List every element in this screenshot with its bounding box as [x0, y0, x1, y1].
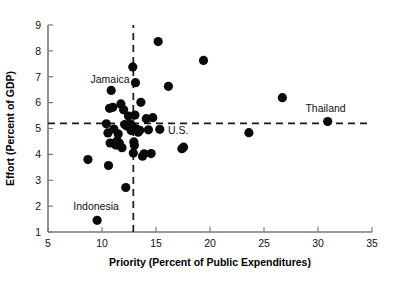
data-point: [199, 56, 208, 65]
x-tick-label: 30: [312, 237, 324, 249]
data-point: [107, 86, 116, 95]
scatter-plot-figure: 123456789 5101520253035 JamaicaIndonesia…: [0, 0, 402, 283]
plot-canvas: 123456789 5101520253035 JamaicaIndonesia…: [0, 0, 402, 283]
data-point: [128, 62, 137, 71]
x-axis-title: Priority (Percent of Public Expenditures…: [109, 256, 311, 268]
data-point: [155, 125, 164, 134]
data-point: [278, 93, 287, 102]
x-tick-label: 15: [150, 237, 162, 249]
data-point: [108, 103, 117, 112]
y-tick-label: 7: [35, 71, 41, 83]
data-point: [104, 161, 113, 170]
data-point: [114, 129, 123, 138]
annotation-label-thailand: Thailand: [305, 102, 345, 114]
y-axis-ticks: 123456789: [35, 19, 53, 238]
x-tick-label: 35: [366, 237, 378, 249]
data-point: [117, 143, 126, 152]
data-point: [130, 141, 139, 150]
data-point: [131, 78, 140, 87]
data-point: [93, 216, 102, 225]
data-point: [147, 149, 156, 158]
data-point: [83, 155, 92, 164]
data-point: [154, 37, 163, 46]
annotation-label-jamaica: Jamaica: [91, 73, 130, 85]
data-point: [144, 125, 153, 134]
y-axis-title: Effort (Percent of GDP): [4, 71, 16, 186]
data-point: [102, 119, 111, 128]
data-point: [121, 183, 130, 192]
y-tick-label: 3: [35, 174, 41, 186]
data-point: [179, 143, 188, 152]
data-point: [244, 128, 253, 137]
x-axis-ticks: 5101520253035: [45, 227, 378, 249]
data-point: [323, 117, 332, 126]
y-tick-label: 8: [35, 45, 41, 57]
y-tick-label: 4: [35, 148, 41, 160]
x-tick-label: 25: [258, 237, 270, 249]
data-point: [130, 110, 139, 119]
x-tick-label: 20: [204, 237, 216, 249]
y-tick-label: 9: [35, 19, 41, 31]
data-point: [135, 126, 144, 135]
y-tick-label: 2: [35, 200, 41, 212]
data-point: [129, 148, 138, 157]
annotation-label-us: U.S.: [168, 124, 188, 136]
annotation-label-indonesia: Indonesia: [73, 200, 119, 212]
data-point: [136, 98, 145, 107]
x-tick-label: 5: [45, 237, 51, 249]
x-tick-label: 10: [96, 237, 108, 249]
y-tick-label: 5: [35, 122, 41, 134]
y-tick-label: 6: [35, 96, 41, 108]
data-points: [83, 37, 332, 225]
data-point: [164, 82, 173, 91]
y-tick-label: 1: [35, 226, 41, 238]
data-point: [148, 113, 157, 122]
